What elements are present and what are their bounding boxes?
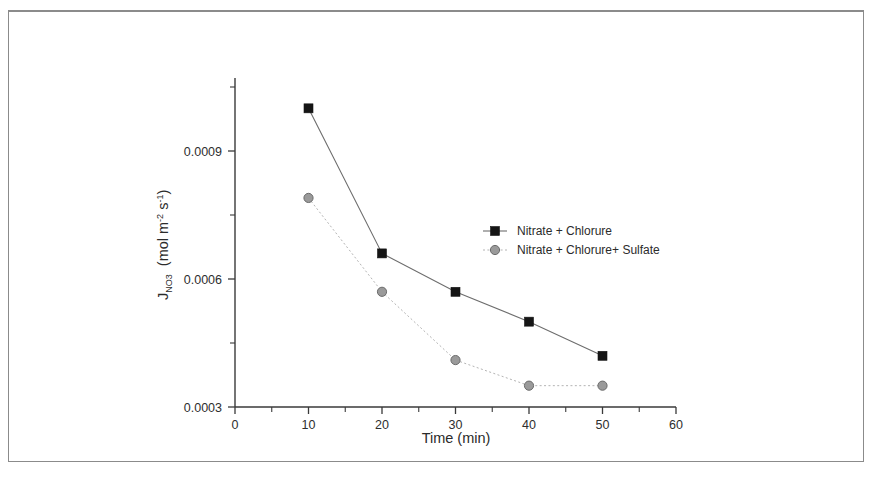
x-axis-major-ticks bbox=[235, 407, 676, 414]
data-point-series1 bbox=[451, 287, 460, 296]
x-tick-label: 60 bbox=[669, 418, 683, 432]
legend-marker-square-icon bbox=[491, 227, 500, 236]
data-point-series2 bbox=[304, 193, 313, 202]
y-axis-title-subscript: NO3 bbox=[164, 274, 174, 293]
x-tick-label: 10 bbox=[302, 418, 316, 432]
page-root: 0.00030.00060.0009 0102030405060 JNO3 (m… bbox=[0, 0, 871, 491]
y-axis-title-symbol: J bbox=[155, 293, 171, 300]
data-point-series1 bbox=[525, 317, 534, 326]
x-tick-label: 0 bbox=[232, 418, 239, 432]
legend-label-2: Nitrate + Chlorure+ Sulfate bbox=[517, 243, 660, 257]
y-tick-label: 0.0006 bbox=[184, 273, 222, 287]
chart-svg: 0.00030.00060.0009 0102030405060 JNO3 (m… bbox=[0, 0, 871, 491]
data-point-series1 bbox=[378, 249, 387, 258]
legend-marker-circle-icon bbox=[490, 245, 499, 254]
y-axis-major-ticks bbox=[228, 151, 235, 407]
x-axis-title: Time (min) bbox=[422, 430, 491, 446]
data-point-series1 bbox=[304, 104, 313, 113]
x-tick-label: 20 bbox=[375, 418, 389, 432]
data-point-series2 bbox=[451, 355, 460, 364]
svg-text:JNO3 (mol m-2 s-1): JNO3 (mol m-2 s-1) bbox=[155, 190, 174, 300]
legend-label-1: Nitrate + Chlorure bbox=[517, 224, 612, 238]
data-point-series2 bbox=[598, 381, 607, 390]
y-axis-minor-ticks bbox=[230, 87, 235, 343]
y-tick-label: 0.0009 bbox=[184, 145, 222, 159]
y-axis-tick-labels: 0.00030.00060.0009 bbox=[184, 145, 222, 415]
x-tick-label: 50 bbox=[596, 418, 610, 432]
x-tick-label: 40 bbox=[522, 418, 536, 432]
y-axis-title: JNO3 (mol m-2 s-1) bbox=[155, 190, 174, 300]
data-point-series2 bbox=[377, 287, 386, 296]
chart-figure: 0.00030.00060.0009 0102030405060 JNO3 (m… bbox=[0, 0, 871, 491]
data-point-series1 bbox=[598, 351, 607, 360]
chart-legend: Nitrate + ChlorureNitrate + Chlorure+ Su… bbox=[483, 224, 660, 257]
data-point-series2 bbox=[524, 381, 533, 390]
y-tick-label: 0.0003 bbox=[184, 401, 222, 415]
